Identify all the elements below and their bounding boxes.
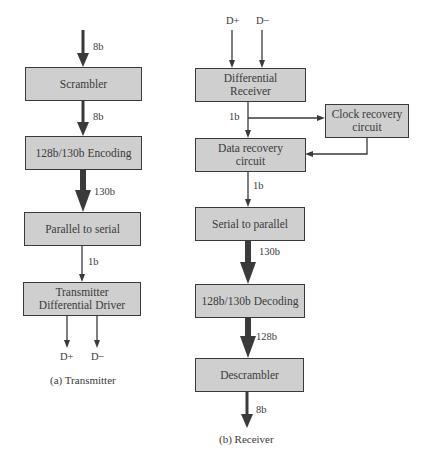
tx-output-dminus-arrow — [94, 315, 100, 348]
rx-output-label: 8b — [256, 404, 267, 415]
receiver-caption: (b) Receiver — [219, 433, 274, 445]
tx-output-dminus-label: D− — [91, 351, 105, 362]
decoding-block: 128b/130b Decoding — [195, 284, 305, 318]
serial-to-parallel-block: Serial to parallel — [195, 207, 305, 241]
parallel-to-serial-block: Parallel to serial — [24, 212, 141, 246]
differential-receiver-block: Differential Receiver — [195, 68, 306, 102]
tx-output-dplus-label: D+ — [60, 351, 74, 362]
rx-link-label-128b: 128b — [256, 331, 277, 342]
tx-arrow-encoding-to-p2s — [75, 169, 91, 212]
clock-recovery-block: Clock recovery circuit — [325, 104, 409, 138]
tx-input-label: 8b — [93, 41, 104, 52]
tx-link-label-8b: 8b — [93, 111, 104, 122]
tx-link-label-130b: 130b — [94, 186, 115, 197]
data-recovery-block: Data recovery circuit — [195, 138, 306, 172]
rx-arrow-receiver-to-data-recovery — [245, 101, 251, 138]
rx-output-arrow — [241, 391, 253, 428]
rx-link-label-1b-upper: 1b — [229, 111, 240, 122]
tx-link-label-1b: 1b — [88, 256, 99, 267]
scrambler-block: Scrambler — [25, 67, 142, 101]
rx-input-dplus-arrow — [229, 30, 235, 68]
rx-arrow-data-recovery-to-s2p — [245, 171, 251, 207]
descrambler-block: Descrambler — [195, 358, 304, 392]
tx-arrow-p2s-to-driver — [79, 245, 85, 282]
transmitter-driver-block: Transmitter Differential Driver — [23, 282, 141, 316]
rx-arrow-s2p-to-decoding — [240, 240, 256, 284]
tx-input-arrow — [77, 30, 89, 67]
rx-input-dplus-label: D+ — [226, 15, 240, 26]
tx-output-dplus-arrow — [64, 315, 70, 348]
rx-arrow-to-clock-recovery — [248, 115, 325, 121]
transmitter-caption: (a) Transmitter — [50, 374, 116, 386]
rx-input-dminus-arrow — [259, 30, 265, 68]
rx-arrow-decoding-to-descrambler — [240, 317, 256, 358]
rx-arrow-clock-to-data-recovery — [305, 137, 367, 157]
encoding-block: 128b/130b Encoding — [25, 136, 142, 170]
tx-arrow-scrambler-to-encoding — [77, 100, 89, 136]
rx-link-label-1b-lower: 1b — [253, 180, 264, 191]
rx-input-dminus-label: D− — [256, 15, 270, 26]
rx-link-label-130b: 130b — [259, 246, 280, 257]
